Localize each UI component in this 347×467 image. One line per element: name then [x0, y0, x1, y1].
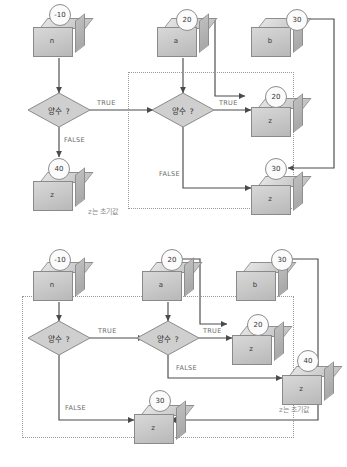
- cube-label: a: [157, 27, 195, 55]
- upper-value-z30: 30: [265, 158, 287, 180]
- lower-d2-false-label: FALSE: [176, 364, 197, 372]
- cube-side-face: [293, 93, 303, 133]
- lower-cube-z40: z: [282, 366, 334, 406]
- decision-label: 양수 ?: [152, 93, 214, 127]
- cube-side-face: [274, 321, 284, 361]
- upper-cube-z30: z: [251, 176, 303, 216]
- lower-d2-true-label: TRUE: [203, 327, 222, 335]
- cube-label: z: [251, 185, 289, 213]
- upper-note: z는 초기값: [88, 206, 118, 216]
- decision-label: 양수 ?: [28, 93, 90, 127]
- upper-value-b: 30: [286, 9, 308, 31]
- cube-label: z: [134, 414, 172, 442]
- cube-side-face: [324, 361, 334, 401]
- lower-value-z40: 40: [297, 350, 319, 372]
- upper-decision-1: 양수 ?: [28, 93, 90, 127]
- cube-label: z: [282, 375, 320, 403]
- cube-label: z: [33, 181, 71, 209]
- upper-decision-2: 양수 ?: [152, 93, 214, 127]
- lower-d1-true-label: TRUE: [98, 327, 117, 335]
- cube-side-face: [184, 257, 194, 297]
- lower-value-a: 20: [161, 249, 183, 271]
- upper-value-z20: 20: [265, 86, 287, 108]
- cube-side-face: [199, 13, 209, 53]
- upper-d2-true-label: TRUE: [219, 99, 238, 107]
- upper-value-n: -10: [49, 4, 71, 26]
- upper-d1-true-label: TRUE: [97, 99, 116, 107]
- upper-d2-false-label: FALSE: [159, 170, 180, 178]
- cube-side-face: [75, 257, 85, 297]
- cube-side-face: [293, 171, 303, 211]
- upper-d1-false-label: FALSE: [64, 136, 85, 144]
- decision-label: 양수 ?: [137, 321, 199, 355]
- upper-value-z40: 40: [48, 158, 70, 180]
- cube-label: a: [142, 271, 180, 299]
- cube-label: b: [236, 271, 274, 299]
- lower-note: z는 초기값: [279, 404, 309, 414]
- decision-label: 양수 ?: [28, 321, 90, 355]
- cube-label: b: [251, 27, 289, 55]
- lower-value-b: 30: [271, 249, 293, 271]
- upper-value-a: 20: [176, 9, 198, 31]
- cube-label: n: [33, 27, 71, 55]
- lower-value-n: -10: [49, 249, 71, 271]
- cube-label: z: [251, 107, 289, 135]
- lower-value-z30: 30: [149, 390, 171, 412]
- lower-value-z20: 20: [247, 314, 269, 336]
- lower-decision-1: 양수 ?: [28, 321, 90, 355]
- cube-side-face: [176, 400, 186, 440]
- cube-side-face: [75, 167, 85, 207]
- cube-label: n: [33, 271, 71, 299]
- cube-side-face: [75, 13, 85, 53]
- figure-canvas: n -10 a 20 b 30 양수 ? TRUE FALSE 양수 ? TRU…: [0, 0, 347, 467]
- lower-d1-false-label: FALSE: [65, 404, 86, 412]
- lower-decision-2: 양수 ?: [137, 321, 199, 355]
- cube-label: z: [232, 335, 270, 363]
